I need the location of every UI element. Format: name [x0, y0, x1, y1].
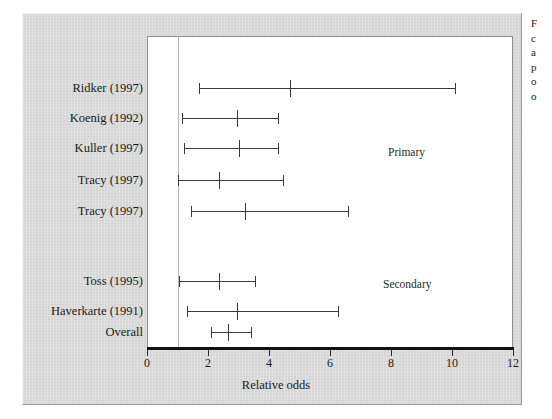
study-label: Ridker (1997)	[73, 81, 143, 96]
ci-upper-cap	[338, 306, 339, 317]
x-tick-label: 8	[388, 356, 394, 371]
figure-caption: Fcapoo	[531, 16, 552, 103]
confidence-interval-bar	[199, 88, 455, 89]
ci-upper-cap	[348, 206, 349, 217]
ci-lower-cap	[191, 206, 192, 217]
confidence-interval-bar	[184, 148, 279, 149]
x-tick-label: 4	[266, 356, 272, 371]
study-label: Haverkarte (1991)	[51, 304, 143, 319]
mean-marker	[237, 110, 238, 127]
confidence-interval-bar	[191, 211, 348, 212]
mean-marker	[245, 203, 246, 220]
ci-lower-cap	[182, 113, 183, 124]
confidence-interval-bar	[179, 281, 255, 282]
ci-lower-cap	[211, 327, 212, 338]
x-tick-label: 2	[205, 356, 211, 371]
mean-marker	[290, 80, 291, 97]
ci-lower-cap	[178, 175, 179, 186]
mean-marker	[237, 303, 238, 320]
study-label: Toss (1995)	[84, 274, 143, 289]
mean-marker	[228, 324, 229, 341]
study-label: Kuller (1997)	[75, 141, 143, 156]
plot-area	[147, 36, 513, 348]
mean-marker	[219, 172, 220, 189]
confidence-interval-bar	[211, 332, 251, 333]
x-tick-label: 12	[507, 356, 519, 371]
study-label: Overall	[106, 325, 143, 340]
confidence-interval-bar	[182, 118, 278, 119]
caption-line: a	[531, 45, 552, 60]
study-label: Tracy (1997)	[78, 204, 143, 219]
group-label-primary: Primary	[388, 146, 425, 158]
confidence-interval-bar	[178, 180, 283, 181]
ci-lower-cap	[184, 143, 185, 154]
ci-upper-cap	[278, 113, 279, 124]
ci-upper-cap	[278, 143, 279, 154]
x-tick-label: 0	[144, 356, 150, 371]
x-axis-title: Relative odds	[0, 378, 552, 393]
x-tick-label: 6	[327, 356, 333, 371]
study-label: Tracy (1997)	[78, 173, 143, 188]
study-label-column: Ridker (1997)Koenig (1992)Kuller (1997)T…	[0, 0, 143, 419]
group-label-secondary: Secondary	[383, 278, 432, 290]
caption-line: p	[531, 60, 552, 75]
ci-lower-cap	[199, 83, 200, 94]
study-label: Koenig (1992)	[70, 111, 143, 126]
mean-marker	[239, 140, 240, 157]
caption-line: o	[531, 74, 552, 89]
mean-marker	[219, 273, 220, 290]
ci-lower-cap	[187, 306, 188, 317]
ci-upper-cap	[455, 83, 456, 94]
x-tick-label: 10	[446, 356, 458, 371]
caption-line: F	[531, 16, 552, 31]
forest-plot-figure: Ridker (1997)Koenig (1992)Kuller (1997)T…	[0, 0, 552, 419]
caption-line: o	[531, 89, 552, 104]
caption-line: c	[531, 31, 552, 46]
confidence-interval-bar	[187, 311, 338, 312]
reference-line	[178, 36, 179, 348]
ci-upper-cap	[255, 276, 256, 287]
ci-lower-cap	[179, 276, 180, 287]
ci-upper-cap	[251, 327, 252, 338]
ci-upper-cap	[283, 175, 284, 186]
